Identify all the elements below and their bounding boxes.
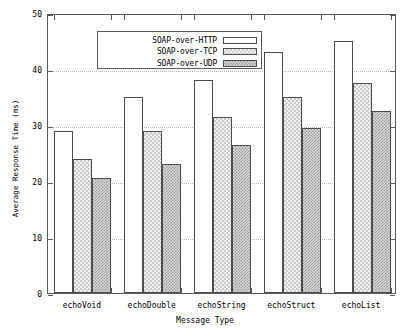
bar [232, 145, 251, 293]
bar [334, 41, 353, 293]
legend-item: SOAP-over-TCP [100, 46, 257, 57]
legend-label-udp: SOAP-over-UDP [157, 59, 217, 68]
bar [92, 178, 111, 293]
legend-item: SOAP-over-HTTP [100, 35, 257, 46]
bar [162, 164, 181, 293]
x-axis-title: Message Type [0, 316, 410, 325]
bar-group [334, 15, 391, 293]
x-axis-tick [251, 288, 252, 293]
x-axis-tick [391, 288, 392, 293]
y-axis-tick [390, 71, 395, 72]
bar [302, 128, 321, 293]
y-axis-tick-label: 30 [18, 122, 42, 131]
bar [124, 97, 143, 293]
x-axis-tick [181, 288, 182, 293]
y-axis-tick-label: 50 [18, 10, 42, 19]
bar [353, 83, 372, 293]
legend: SOAP-over-HTTP SOAP-over-TCP SOAP-over-U… [97, 31, 262, 69]
plot-area: SOAP-over-HTTP SOAP-over-TCP SOAP-over-U… [47, 14, 396, 294]
x-axis-tick [321, 288, 322, 293]
y-axis-tick [48, 295, 53, 296]
legend-swatch-udp [223, 60, 257, 67]
y-axis-tick-label: 10 [18, 234, 42, 243]
legend-label-tcp: SOAP-over-TCP [157, 47, 217, 56]
y-axis-tick [48, 127, 53, 128]
legend-item: SOAP-over-UDP [100, 58, 257, 69]
y-axis-tick-label: 0 [18, 290, 42, 299]
bar [73, 159, 92, 293]
bar [372, 111, 391, 293]
y-axis-tick-label: 40 [18, 66, 42, 75]
legend-swatch-http [223, 37, 257, 44]
y-axis-tick [48, 183, 53, 184]
y-axis-tick [48, 239, 53, 240]
legend-swatch-tcp [223, 48, 257, 55]
chart-figure: 01020304050 Average Response Time (ms) S… [0, 0, 410, 328]
y-axis-title: Average Response Time (ms) [11, 84, 20, 234]
y-axis-tick [390, 127, 395, 128]
y-axis-tick [390, 239, 395, 240]
bar [283, 97, 302, 293]
x-axis-tick [181, 15, 182, 20]
x-axis-tick [111, 288, 112, 293]
bar [143, 131, 162, 293]
legend-label-http: SOAP-over-HTTP [152, 36, 217, 45]
bar [194, 80, 213, 293]
x-axis-tick [321, 15, 322, 20]
x-axis-tick [251, 15, 252, 20]
x-axis-tick [391, 15, 392, 20]
x-axis-tick-label: echoList [342, 301, 381, 310]
y-axis-tick-label: 20 [18, 178, 42, 187]
x-axis-tick-label: echoDouble [128, 301, 176, 310]
bar [54, 131, 73, 293]
x-axis-tick-label: echoStruct [267, 301, 315, 310]
x-axis-tick-label: echoString [197, 301, 245, 310]
bar [264, 52, 283, 293]
x-axis-tick-label: echoVoid [63, 301, 102, 310]
x-axis-tick [111, 15, 112, 20]
bar [213, 117, 232, 293]
y-axis-tick [48, 71, 53, 72]
y-axis-tick [390, 183, 395, 184]
y-axis-tick [390, 295, 395, 296]
y-axis-tick [48, 15, 53, 16]
bar-group [264, 15, 321, 293]
